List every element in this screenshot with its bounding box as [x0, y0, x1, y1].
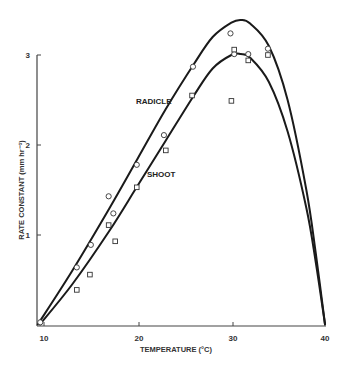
radicle-fit-curve — [37, 20, 325, 325]
shoot-data-point — [232, 47, 237, 52]
radicle-data-point — [228, 31, 233, 36]
shoot-label: SHOOT — [147, 170, 176, 179]
shoot-data-point — [246, 58, 251, 63]
radicle-label: RADICLE — [136, 97, 172, 106]
shoot-data-point — [164, 148, 169, 153]
y-tick-label: 3 — [26, 51, 31, 60]
y-tick-label: 2 — [26, 141, 31, 150]
tick-labels: 3 2 1 10 20 30 40 — [26, 51, 330, 343]
shoot-data-point — [190, 93, 195, 98]
y-tick-label: 1 — [26, 231, 31, 240]
radicle-data-point — [246, 52, 251, 57]
shoot-data-point — [74, 288, 79, 293]
shoot-fit-curve — [39, 53, 325, 325]
shoot-data-point — [134, 185, 139, 190]
radicle-data-point — [161, 133, 166, 138]
rate-constant-chart: 3 2 1 10 20 30 40 TEMPERATURE (°C) RATE … — [0, 0, 351, 371]
shoot-data-point — [229, 99, 234, 104]
radicle-data-point — [106, 194, 111, 199]
shoot-data-point — [88, 272, 93, 277]
radicle-data-point — [74, 265, 79, 270]
shoot-data-point — [113, 239, 118, 244]
x-tick-label: 20 — [135, 334, 144, 343]
radicle-data-point — [134, 162, 139, 167]
x-tick-label: 30 — [229, 334, 238, 343]
y-axis-title: RATE CONSTANT (mm hr⁻¹) — [17, 140, 26, 240]
x-tick-label: 40 — [321, 334, 330, 343]
radicle-data-point — [190, 64, 195, 69]
shoot-data-point — [266, 53, 271, 58]
radicle-data-point — [265, 46, 270, 51]
x-tick-label: 10 — [40, 334, 49, 343]
shoot-data-point — [106, 223, 111, 228]
axes — [37, 55, 326, 326]
radicle-data-point — [38, 320, 43, 325]
radicle-data-point — [111, 211, 116, 216]
fit-curves — [37, 20, 325, 325]
x-axis-title: TEMPERATURE (°C) — [140, 345, 213, 354]
radicle-data-point — [88, 242, 93, 247]
